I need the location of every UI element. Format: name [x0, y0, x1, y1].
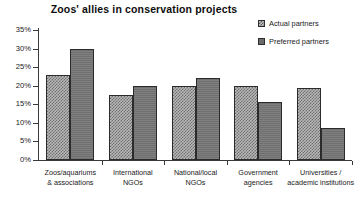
bar-preferred — [133, 86, 157, 160]
legend-swatch-icon-actual — [258, 20, 265, 27]
x-axis-category-label-line: International — [98, 168, 169, 178]
x-axis-category-label: National/localNGOs — [160, 168, 231, 187]
y-axis-tick — [33, 104, 38, 105]
bar-preferred — [70, 49, 94, 160]
y-axis-tick — [33, 123, 38, 124]
bar-actual — [297, 88, 321, 160]
bar-chart: Zoos' allies in conservation projects Ac… — [0, 0, 360, 214]
legend-item-actual-partners: Actual partners — [258, 16, 358, 31]
x-axis-line — [38, 160, 352, 161]
bar-actual — [234, 86, 258, 160]
y-axis-tick-label: 30% — [3, 45, 31, 53]
x-axis-category-label: Zoos/aquariums& associations — [35, 168, 106, 187]
legend-label-preferred: Preferred partners — [269, 38, 329, 45]
y-axis-tick — [33, 67, 38, 68]
y-axis-tick-label: 35% — [3, 26, 31, 34]
x-axis-tick — [352, 161, 353, 165]
x-axis-category-label-line: agencies — [223, 178, 294, 188]
y-axis-tick — [33, 86, 38, 87]
x-axis-category-label-line: National/local — [160, 168, 231, 178]
x-axis-category-label-line: NGOs — [160, 178, 231, 188]
y-axis-tick-label: 5% — [3, 137, 31, 145]
bar-actual — [109, 95, 133, 160]
x-axis-category-label: Universities /academic institutions — [285, 168, 356, 187]
chart-title: Zoos' allies in conservation projects — [0, 3, 288, 15]
x-axis-tick — [102, 161, 103, 165]
y-axis-tick-label: 15% — [3, 100, 31, 108]
bar-preferred — [258, 102, 282, 160]
y-axis-tick — [33, 141, 38, 142]
y-axis-tick — [33, 160, 38, 161]
x-axis-tick — [289, 161, 290, 165]
x-axis-category-label: Governmentagencies — [223, 168, 294, 187]
y-axis-line — [38, 28, 39, 161]
y-axis-tick-label: 0% — [3, 156, 31, 164]
bar-actual — [172, 86, 196, 160]
y-axis-tick-label: 10% — [3, 119, 31, 127]
x-axis-category-label-line: Universities / — [285, 168, 356, 178]
x-axis-category-label-line: NGOs — [98, 178, 169, 188]
legend-item-preferred-partners: Preferred partners — [258, 34, 358, 49]
x-axis-category-label-line: & associations — [35, 178, 106, 188]
x-axis-category-label-line: Zoos/aquariums — [35, 168, 106, 178]
bar-preferred — [196, 78, 220, 160]
legend-swatch-icon-preferred — [258, 38, 265, 45]
x-axis-tick — [164, 161, 165, 165]
y-axis-tick — [33, 30, 38, 31]
x-axis-tick — [227, 161, 228, 165]
bar-preferred — [321, 128, 345, 160]
y-axis-tick-label: 25% — [3, 63, 31, 71]
y-axis-tick-label: 20% — [3, 82, 31, 90]
y-axis-tick — [33, 49, 38, 50]
x-axis-category-label-line: academic institutions — [285, 178, 356, 188]
x-axis-category-label: InternationalNGOs — [98, 168, 169, 187]
legend-label-actual: Actual partners — [269, 20, 319, 27]
chart-legend: Actual partners Preferred partners — [258, 16, 358, 52]
x-axis-category-label-line: Government — [223, 168, 294, 178]
bar-actual — [46, 75, 70, 160]
